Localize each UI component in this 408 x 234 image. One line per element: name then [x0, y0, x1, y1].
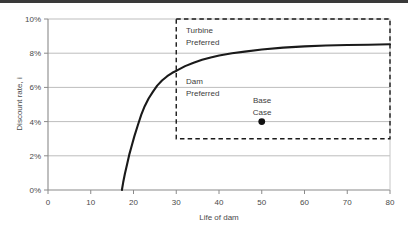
discount-rate-vs-dam-life-chart: 10% 8% 6% 4% 2% 0% 0 10 20 30 40 50 60 7… — [0, 0, 408, 234]
x-tick-label-10: 10 — [86, 198, 95, 207]
chart-figure: 10% 8% 6% 4% 2% 0% 0 10 20 30 40 50 60 7… — [0, 0, 408, 234]
x-axis-title: Life of dam — [199, 213, 239, 222]
x-tick-label-20: 20 — [129, 198, 138, 207]
y-tick-label-10pct: 10% — [25, 15, 41, 24]
turbine-preferred-label-line1: Turbine — [186, 26, 213, 35]
y-axis-title: Discount rate, i — [15, 77, 24, 131]
x-tick-label-70: 70 — [343, 198, 352, 207]
x-tick-label-0: 0 — [46, 198, 51, 207]
turbine-preferred-label-line2: Preferred — [186, 38, 219, 47]
x-tick-label-30: 30 — [172, 198, 181, 207]
y-tick-marks — [44, 19, 48, 190]
base-case-point — [258, 118, 265, 125]
base-case-label-line2: Case — [253, 108, 272, 117]
y-tick-label-2pct: 2% — [29, 152, 41, 161]
y-tick-label-6pct: 6% — [29, 83, 41, 92]
dam-preferred-label-line2: Preferred — [186, 89, 219, 98]
x-tick-label-60: 60 — [300, 198, 309, 207]
x-tick-label-40: 40 — [215, 198, 224, 207]
base-case-label-line1: Base — [253, 96, 272, 105]
x-tick-marks — [48, 190, 390, 194]
x-tick-label-80: 80 — [386, 198, 395, 207]
x-tick-label-50: 50 — [257, 198, 266, 207]
y-tick-label-0pct: 0% — [29, 186, 41, 195]
y-tick-label-4pct: 4% — [29, 118, 41, 127]
y-tick-label-8pct: 8% — [29, 49, 41, 58]
dam-preferred-label-line1: Dam — [186, 77, 203, 86]
